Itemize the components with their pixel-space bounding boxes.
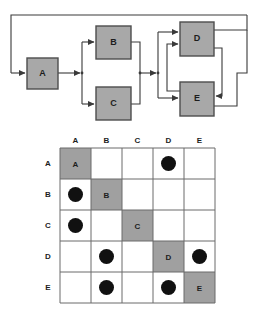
edge-e-to-d — [167, 44, 180, 91]
design-structure-matrix: A B C D E A B C D E — [0, 130, 258, 323]
diagonal-label-a: A — [73, 160, 79, 169]
edge-b-out — [131, 42, 140, 73]
column-header-b: B — [104, 136, 110, 145]
matrix-mark-a-d[interactable] — [161, 156, 176, 171]
column-header-e: E — [197, 136, 203, 145]
column-header-a: A — [73, 136, 79, 145]
matrix-canvas: A B C D E A B C D E — [0, 130, 258, 323]
node-b: B — [96, 26, 131, 59]
row-header-e: E — [45, 283, 51, 292]
diagram-canvas: A B C D E — [0, 0, 258, 130]
junction-dot-merge — [139, 72, 142, 75]
block-flow-diagram: A B C D E — [0, 0, 258, 130]
node-b-label: B — [110, 37, 117, 47]
junction-dot-right-fanout — [157, 72, 160, 75]
column-header-d: D — [166, 136, 172, 145]
row-header-d: D — [45, 252, 51, 261]
matrix-mark-c-a[interactable] — [68, 218, 83, 233]
row-header-a: A — [45, 159, 51, 168]
diagonal-label-b: B — [104, 191, 110, 200]
matrix-mark-e-d[interactable] — [161, 280, 176, 295]
edge-d-to-e — [214, 48, 222, 96]
node-e-label: E — [194, 93, 200, 103]
row-header-b: B — [45, 190, 51, 199]
node-a-label: A — [39, 68, 46, 78]
column-header-c: C — [135, 136, 141, 145]
matrix-mark-d-b[interactable] — [99, 249, 114, 264]
node-c: C — [96, 87, 131, 120]
node-group: A B C D E — [27, 22, 214, 120]
node-d-label: D — [194, 33, 201, 43]
edge-c-out — [131, 73, 140, 104]
diagonal-label-d: D — [166, 253, 172, 262]
edge-e-to-feedback — [214, 30, 247, 106]
matrix-row-headers: A B C D E — [45, 159, 51, 292]
junction-dot-fanout — [81, 72, 84, 75]
node-d: D — [180, 22, 214, 56]
matrix-mark-d-e[interactable] — [192, 249, 207, 264]
node-c-label: C — [110, 98, 117, 108]
diagonal-label-e: E — [197, 284, 203, 293]
matrix-column-headers: A B C D E — [73, 136, 203, 145]
matrix-mark-e-b[interactable] — [99, 280, 114, 295]
node-a: A — [27, 58, 58, 89]
node-e: E — [180, 82, 214, 116]
row-header-c: C — [45, 221, 51, 230]
diagonal-label-c: C — [135, 222, 141, 231]
edge-d-to-feedback — [214, 15, 247, 30]
matrix-mark-b-a[interactable] — [68, 187, 83, 202]
